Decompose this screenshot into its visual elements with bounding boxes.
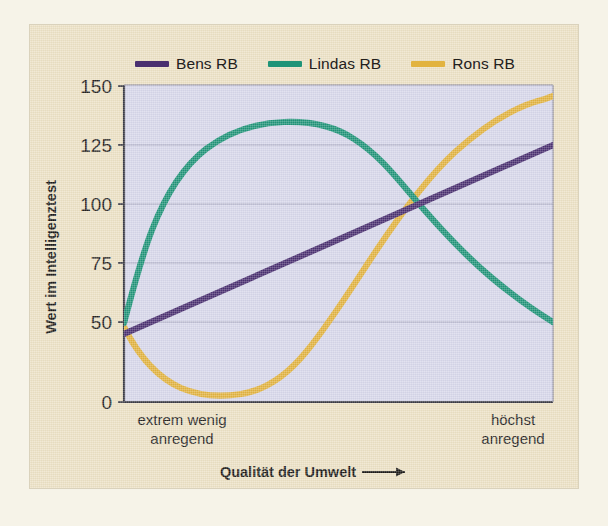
arrow-right-icon	[362, 468, 405, 477]
x-axis-title: Qualität der Umwelt	[220, 464, 356, 480]
legend-swatch-rons	[411, 61, 445, 67]
legend-item-rons: Rons RB	[411, 55, 515, 73]
x-cat-left-line2: anregend	[150, 430, 213, 447]
figure-panel: Bens RB Lindas RB Rons RB	[30, 25, 578, 488]
legend-label-rons: Rons RB	[452, 55, 515, 73]
x-cat-right-line2: anregend	[481, 430, 544, 447]
y-tick-125: 125	[80, 135, 112, 156]
legend-swatch-bens	[135, 61, 169, 67]
y-tick-0: 0	[101, 392, 112, 413]
x-category-labels: extrem wenig anregend höchst anregend	[137, 411, 544, 447]
y-tick-150: 150	[80, 76, 112, 97]
legend-item-bens: Bens RB	[135, 55, 238, 73]
line-chart-svg: 0 50 75 100 125 150 Wert im Intelligenzt…	[30, 25, 578, 488]
y-tick-100: 100	[80, 194, 112, 215]
legend-swatch-lindas	[268, 61, 302, 67]
legend-item-lindas: Lindas RB	[268, 55, 381, 73]
x-axis-title-group: Qualität der Umwelt	[220, 464, 405, 480]
x-cat-left-line1: extrem wenig	[137, 411, 226, 428]
legend-label-bens: Bens RB	[176, 55, 238, 73]
legend-label-lindas: Lindas RB	[309, 55, 381, 73]
chart-legend: Bens RB Lindas RB Rons RB	[90, 51, 560, 77]
y-tick-75: 75	[91, 253, 112, 274]
x-cat-right-line1: höchst	[491, 411, 536, 428]
y-tick-50: 50	[91, 312, 112, 333]
y-axis-title: Wert im Intelligenztest	[43, 180, 59, 334]
figure-root: Bens RB Lindas RB Rons RB	[0, 0, 608, 526]
y-tick-labels: 0 50 75 100 125 150	[80, 76, 112, 413]
plot-area-wrapper: 0 50 75 100 125 150 Wert im Intelligenzt…	[30, 25, 578, 488]
